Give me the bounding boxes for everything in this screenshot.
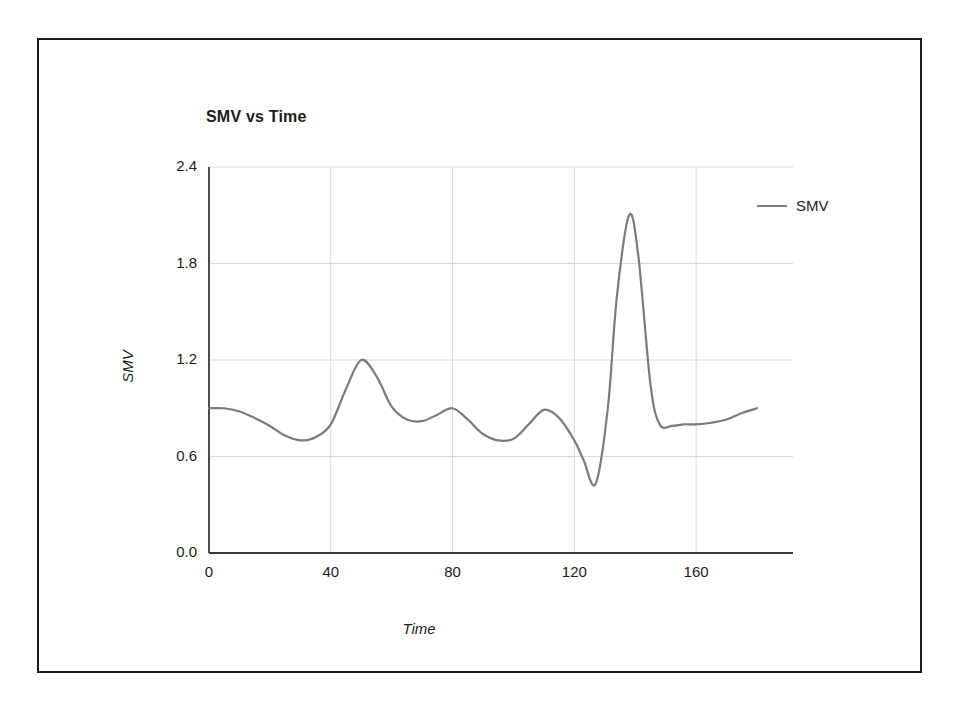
chart-legend: SMV xyxy=(757,197,829,214)
x-tick-label: 0 xyxy=(184,563,234,580)
x-axis-label: Time xyxy=(39,620,799,637)
y-tick-label: 1.2 xyxy=(143,350,197,367)
y-tick-label: 0.0 xyxy=(143,543,197,560)
screenshot-page: SMV vs Time SMV Time SMV 0.00.61.21.82.4… xyxy=(0,0,958,709)
y-tick-label: 1.8 xyxy=(143,254,197,271)
y-tick-label: 2.4 xyxy=(143,157,197,174)
x-tick-label: 160 xyxy=(671,563,721,580)
legend-line-swatch-smv xyxy=(757,205,787,207)
x-tick-label: 120 xyxy=(549,563,599,580)
legend-label-smv: SMV xyxy=(796,197,829,214)
x-tick-label: 80 xyxy=(428,563,478,580)
y-tick-label: 0.6 xyxy=(143,447,197,464)
chart-area: SMV vs Time SMV Time SMV 0.00.61.21.82.4… xyxy=(39,40,920,671)
x-tick-label: 40 xyxy=(306,563,356,580)
y-axis-label: SMV xyxy=(119,337,136,397)
series-line-smv xyxy=(209,214,757,486)
figure-frame: SMV vs Time SMV Time SMV 0.00.61.21.82.4… xyxy=(37,38,922,673)
